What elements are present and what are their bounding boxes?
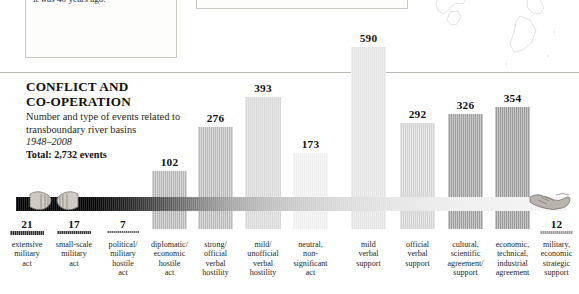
label-line: military xyxy=(101,249,145,258)
label-line: economic, xyxy=(489,240,536,249)
label-line: strong/ xyxy=(192,240,239,249)
bar-value-6: 393 xyxy=(245,82,281,94)
chart-column: 173neutral,non-significantact xyxy=(293,0,328,294)
bar-2 xyxy=(57,231,91,234)
label-line: agreement/ xyxy=(442,259,489,268)
bar-7 xyxy=(293,153,328,229)
label-line: support xyxy=(442,268,489,277)
bar-label-1: extensivemilitaryact xyxy=(4,240,50,268)
label-line: mild xyxy=(345,240,392,249)
bar-label-11: economic,technical,industrialagreement xyxy=(489,240,536,277)
label-line: political/ xyxy=(101,240,145,249)
bar-label-5: strong/officialverbalhostility xyxy=(192,240,239,277)
label-line: official xyxy=(394,240,441,249)
bar-1 xyxy=(10,231,44,235)
bar-label-3: political/militaryhostileact xyxy=(101,240,145,277)
label-line: support xyxy=(345,259,392,268)
label-line: economic xyxy=(534,249,579,258)
label-line: technical, xyxy=(489,249,536,258)
label-line: act xyxy=(146,268,193,277)
chart-column: 21extensivemilitaryact xyxy=(10,0,44,294)
label-line: act xyxy=(51,259,97,268)
chart-column: 17small-scalemilitaryact xyxy=(57,0,91,294)
label-line: economic xyxy=(146,249,193,258)
bar-label-10: cultural,scientificagreement/support xyxy=(442,240,489,277)
label-line: small-scale xyxy=(51,240,97,249)
label-line: hostile xyxy=(146,259,193,268)
label-line: neutral, xyxy=(287,240,334,249)
label-line: hostility xyxy=(192,268,239,277)
label-line: verbal xyxy=(394,249,441,258)
chart-column: 393mild/unofficialverbalhostility xyxy=(245,0,281,294)
bar-label-6: mild/unofficialverbalhostility xyxy=(239,240,287,277)
bar-label-12: military,economicstrategicsupport xyxy=(534,240,579,277)
chart-column: 102diplomatic/economichostileact xyxy=(152,0,187,294)
label-line: scientific xyxy=(442,249,489,258)
label-line: military, xyxy=(534,240,579,249)
label-line: support xyxy=(394,259,441,268)
bar-label-8: mildverbalsupport xyxy=(345,240,392,268)
conflict-cooperation-gradient-band xyxy=(16,197,567,211)
label-line: military xyxy=(51,249,97,258)
label-line: support xyxy=(534,268,579,277)
fists-icon xyxy=(28,188,80,212)
label-line: official xyxy=(192,249,239,258)
label-line: non- xyxy=(287,249,334,258)
bar-label-9: officialverbalsupport xyxy=(394,240,441,268)
label-line: mild/ xyxy=(239,240,287,249)
bar-chart: 21extensivemilitaryact17small-scalemilit… xyxy=(0,0,579,294)
label-line: hostility xyxy=(239,268,287,277)
bar-3 xyxy=(107,231,139,233)
handshake-icon xyxy=(529,189,571,212)
infographic-root: contributed to an environmental disaster… xyxy=(0,0,579,294)
chart-column: 292officialverbalsupport xyxy=(400,0,435,294)
bar-value-9: 292 xyxy=(400,108,435,120)
label-line: verbal xyxy=(345,249,392,258)
chart-column: 326cultural,scientificagreement/support xyxy=(448,0,483,294)
label-line: verbal xyxy=(192,259,239,268)
bar-value-12: 12 xyxy=(540,218,573,230)
chart-column: 590mildverbalsupport xyxy=(351,0,386,294)
bar-12 xyxy=(540,231,573,234)
bar-value-8: 590 xyxy=(351,32,386,44)
label-line: cultural, xyxy=(442,240,489,249)
bar-value-7: 173 xyxy=(293,138,328,150)
chart-column: 12military,economicstrategicsupport xyxy=(540,0,573,294)
label-line: act xyxy=(101,268,145,277)
bar-value-1: 21 xyxy=(10,218,44,230)
bar-value-10: 326 xyxy=(448,99,483,111)
label-line: unofficial xyxy=(239,249,287,258)
bar-5 xyxy=(198,127,233,229)
bar-value-3: 7 xyxy=(107,218,139,230)
label-line: verbal xyxy=(239,259,287,268)
bar-9 xyxy=(400,123,435,229)
bar-value-11: 354 xyxy=(495,92,530,104)
bar-value-5: 276 xyxy=(198,112,233,124)
label-line: industrial xyxy=(489,259,536,268)
label-line: strategic xyxy=(534,259,579,268)
bar-value-4: 102 xyxy=(152,156,187,168)
bar-label-4: diplomatic/economichostileact xyxy=(146,240,193,277)
chart-column: 276strong/officialverbalhostility xyxy=(198,0,233,294)
label-line: diplomatic/ xyxy=(146,240,193,249)
bar-value-2: 17 xyxy=(57,218,91,230)
label-line: agreement xyxy=(489,268,536,277)
label-line: significant xyxy=(287,259,334,268)
label-line: hostile xyxy=(101,259,145,268)
chart-column: 7political/militaryhostileact xyxy=(107,0,139,294)
bar-label-2: small-scalemilitaryact xyxy=(51,240,97,268)
label-line: extensive xyxy=(4,240,50,249)
bar-label-7: neutral,non-significantact xyxy=(287,240,334,277)
chart-column: 354economic,technical,industrialagreemen… xyxy=(495,0,530,294)
bar-10 xyxy=(448,114,483,229)
label-line: military xyxy=(4,249,50,258)
label-line: act xyxy=(287,268,334,277)
label-line: act xyxy=(4,259,50,268)
